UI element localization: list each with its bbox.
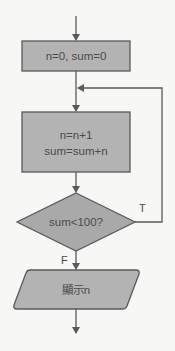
output-text: 顯示n <box>62 284 90 296</box>
decision-node: sum<100? <box>17 193 135 251</box>
output-node: 顯示n <box>14 270 139 309</box>
init-text: n=0, sum=0 <box>46 50 107 62</box>
process-text-line2: sum=sum+n <box>44 145 107 157</box>
init-node: n=0, sum=0 <box>22 41 130 71</box>
decision-text: sum<100? <box>49 216 103 228</box>
true-label: T <box>139 202 146 214</box>
process-node: n=n+1 sum=sum+n <box>22 112 130 172</box>
process-text-line1: n=n+1 <box>60 129 93 141</box>
flowchart: n=0, sum=0 n=n+1 sum=sum+n sum<100? T F … <box>0 0 175 351</box>
false-label: F <box>61 254 68 266</box>
